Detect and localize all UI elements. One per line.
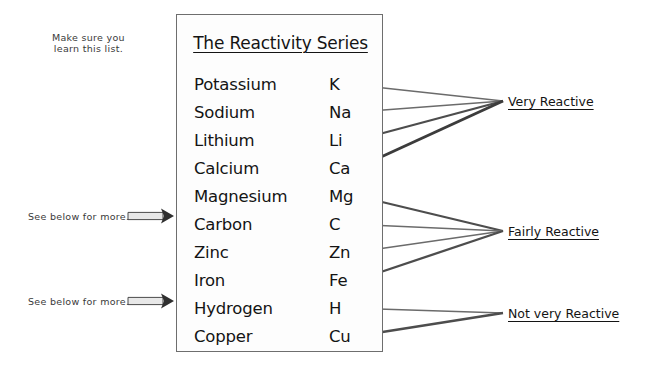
annotation-arrow-head xyxy=(161,294,174,309)
annotation-arrow-head xyxy=(161,209,174,224)
page-title: The Reactivity Series xyxy=(177,33,384,53)
element-row: IronFe xyxy=(177,267,384,295)
element-symbol: K xyxy=(329,71,340,99)
diagram-canvas: The Reactivity Series PotassiumKSodiumNa… xyxy=(0,0,645,379)
annotation-line: learn this list. xyxy=(52,43,125,54)
annotation-carbon-note: See below for more. xyxy=(28,211,129,222)
element-symbol: Li xyxy=(329,127,342,155)
element-row: LithiumLi xyxy=(177,127,384,155)
element-symbol: Na xyxy=(329,99,351,127)
annotation-line: Make sure you xyxy=(52,32,125,43)
element-name: Hydrogen xyxy=(194,295,273,323)
element-name: Sodium xyxy=(194,99,255,127)
annotation-line: See below for more. xyxy=(28,296,129,307)
element-symbol: Fe xyxy=(329,267,347,295)
annotation-arrow-shaft xyxy=(128,212,163,219)
group-label-fairly-reactive: Fairly Reactive xyxy=(508,224,599,239)
element-name: Magnesium xyxy=(194,183,287,211)
element-name: Copper xyxy=(194,323,252,351)
element-symbol: H xyxy=(329,295,341,323)
group-label-not-very-reactive: Not very Reactive xyxy=(508,306,619,321)
element-name: Iron xyxy=(194,267,225,295)
annotation-hydrogen-note: See below for more. xyxy=(28,296,129,307)
element-symbol: C xyxy=(329,211,340,239)
element-symbol: Cu xyxy=(329,323,351,351)
element-row: SodiumNa xyxy=(177,99,384,127)
group-label-very-reactive: Very Reactive xyxy=(508,94,594,109)
element-name: Lithium xyxy=(194,127,254,155)
element-row: CarbonC xyxy=(177,211,384,239)
annotation-arrow-shaft xyxy=(128,297,163,304)
element-row: MagnesiumMg xyxy=(177,183,384,211)
element-name: Zinc xyxy=(194,239,229,267)
annotation-line: See below for more. xyxy=(28,211,129,222)
annotation-learn-list: Make sure youlearn this list. xyxy=(52,32,125,54)
element-row: CalciumCa xyxy=(177,155,384,183)
element-row: HydrogenH xyxy=(177,295,384,323)
element-row: ZincZn xyxy=(177,239,384,267)
element-symbol: Zn xyxy=(329,239,350,267)
element-name: Potassium xyxy=(194,71,277,99)
element-symbol: Ca xyxy=(329,155,350,183)
element-name: Calcium xyxy=(194,155,259,183)
element-row: PotassiumK xyxy=(177,71,384,99)
reactivity-series-box: The Reactivity Series PotassiumKSodiumNa… xyxy=(176,14,383,352)
element-symbol: Mg xyxy=(329,183,353,211)
element-row: CopperCu xyxy=(177,323,384,351)
element-name: Carbon xyxy=(194,211,252,239)
